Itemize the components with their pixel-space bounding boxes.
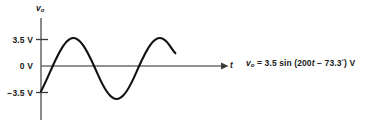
equation-amplitude: 3.5 xyxy=(265,58,277,68)
equation-minus-sign: − xyxy=(315,58,325,68)
equation-angular-frequency: 200 xyxy=(297,58,311,68)
equation-phase-value: 73.3 xyxy=(325,58,342,68)
equation-annotation: vo = 3.5 sin (200t − 73.3°) V xyxy=(246,58,355,68)
y-axis-name: vo xyxy=(36,3,44,13)
y-tick-label-negative: −3.5 V xyxy=(0,88,33,98)
y-tick-label-zero: 0 V xyxy=(0,61,33,71)
x-axis-arrowhead xyxy=(221,62,229,69)
sine-waveform-curve xyxy=(41,38,175,99)
equation-equals: = xyxy=(255,58,265,68)
equation-unit: V xyxy=(347,58,355,68)
x-axis-name: t xyxy=(230,60,233,70)
y-tick-label-positive: 3.5 V xyxy=(0,35,33,45)
waveform-figure: 3.5 V 0 V −3.5 V vo t vo = 3.5 sin (200t… xyxy=(0,0,373,127)
y-axis-name-subscript: o xyxy=(41,7,45,13)
equation-sin-function: sin xyxy=(277,58,295,68)
